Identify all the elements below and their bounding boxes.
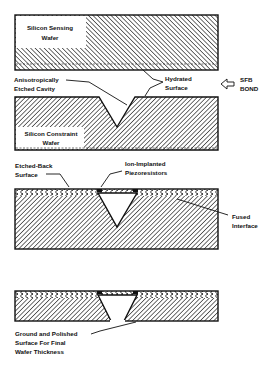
sfb-label-1: SFB xyxy=(240,76,253,83)
fused-label-2: Interface xyxy=(232,222,258,229)
ground-label-3: Wafer Thickness xyxy=(15,348,65,355)
ion-label-1: Ion-Implanted xyxy=(125,160,166,167)
ground-annotation: Ground and Polished Surface For Final Wa… xyxy=(15,322,136,355)
hydrated-label-2: Surface xyxy=(165,84,188,91)
hydrated-label-1: Hydrated xyxy=(165,75,192,82)
etched-back-label-1: Etched-Back xyxy=(15,162,53,169)
ion-leader xyxy=(101,171,122,187)
ground-leader xyxy=(91,322,136,334)
sfb-process-diagram: Silicon Sensing Wafer Anisotropically Et… xyxy=(0,0,274,369)
etched-leader xyxy=(46,174,69,187)
constraint-wafer-label-1: Silicon Constraint xyxy=(25,130,78,137)
hydrated-leader-bottom xyxy=(145,82,163,96)
ground-label-2: Surface For Final xyxy=(15,339,66,346)
cavity-label-2: Etched Cavity xyxy=(14,85,55,92)
sensing-wafer-label-2: Wafer xyxy=(42,34,60,41)
cavity-label-1: Anisotropically xyxy=(14,76,59,83)
thinned-wafer xyxy=(15,291,218,323)
fused-label-1: Fused xyxy=(232,213,250,220)
stage3-annotations: Etched-Back Surface Ion-Implanted Piezor… xyxy=(15,160,168,187)
ion-label-2: Piezoresistors xyxy=(125,169,168,176)
ground-label-1: Ground and Polished xyxy=(15,330,78,337)
left-arrow-icon xyxy=(221,79,234,89)
bonded-wafer xyxy=(15,189,218,249)
sensing-wafer-label-1: Silicon Sensing xyxy=(27,24,73,31)
constraint-wafer: Silicon Constraint Wafer xyxy=(15,97,218,150)
hydrated-leader-top xyxy=(143,70,163,82)
constraint-wafer-label-2: Wafer xyxy=(43,139,61,146)
sfb-label-2: BOND xyxy=(240,85,259,92)
etched-back-label-2: Surface xyxy=(15,171,38,178)
sensing-wafer: Silicon Sensing Wafer xyxy=(15,15,218,70)
